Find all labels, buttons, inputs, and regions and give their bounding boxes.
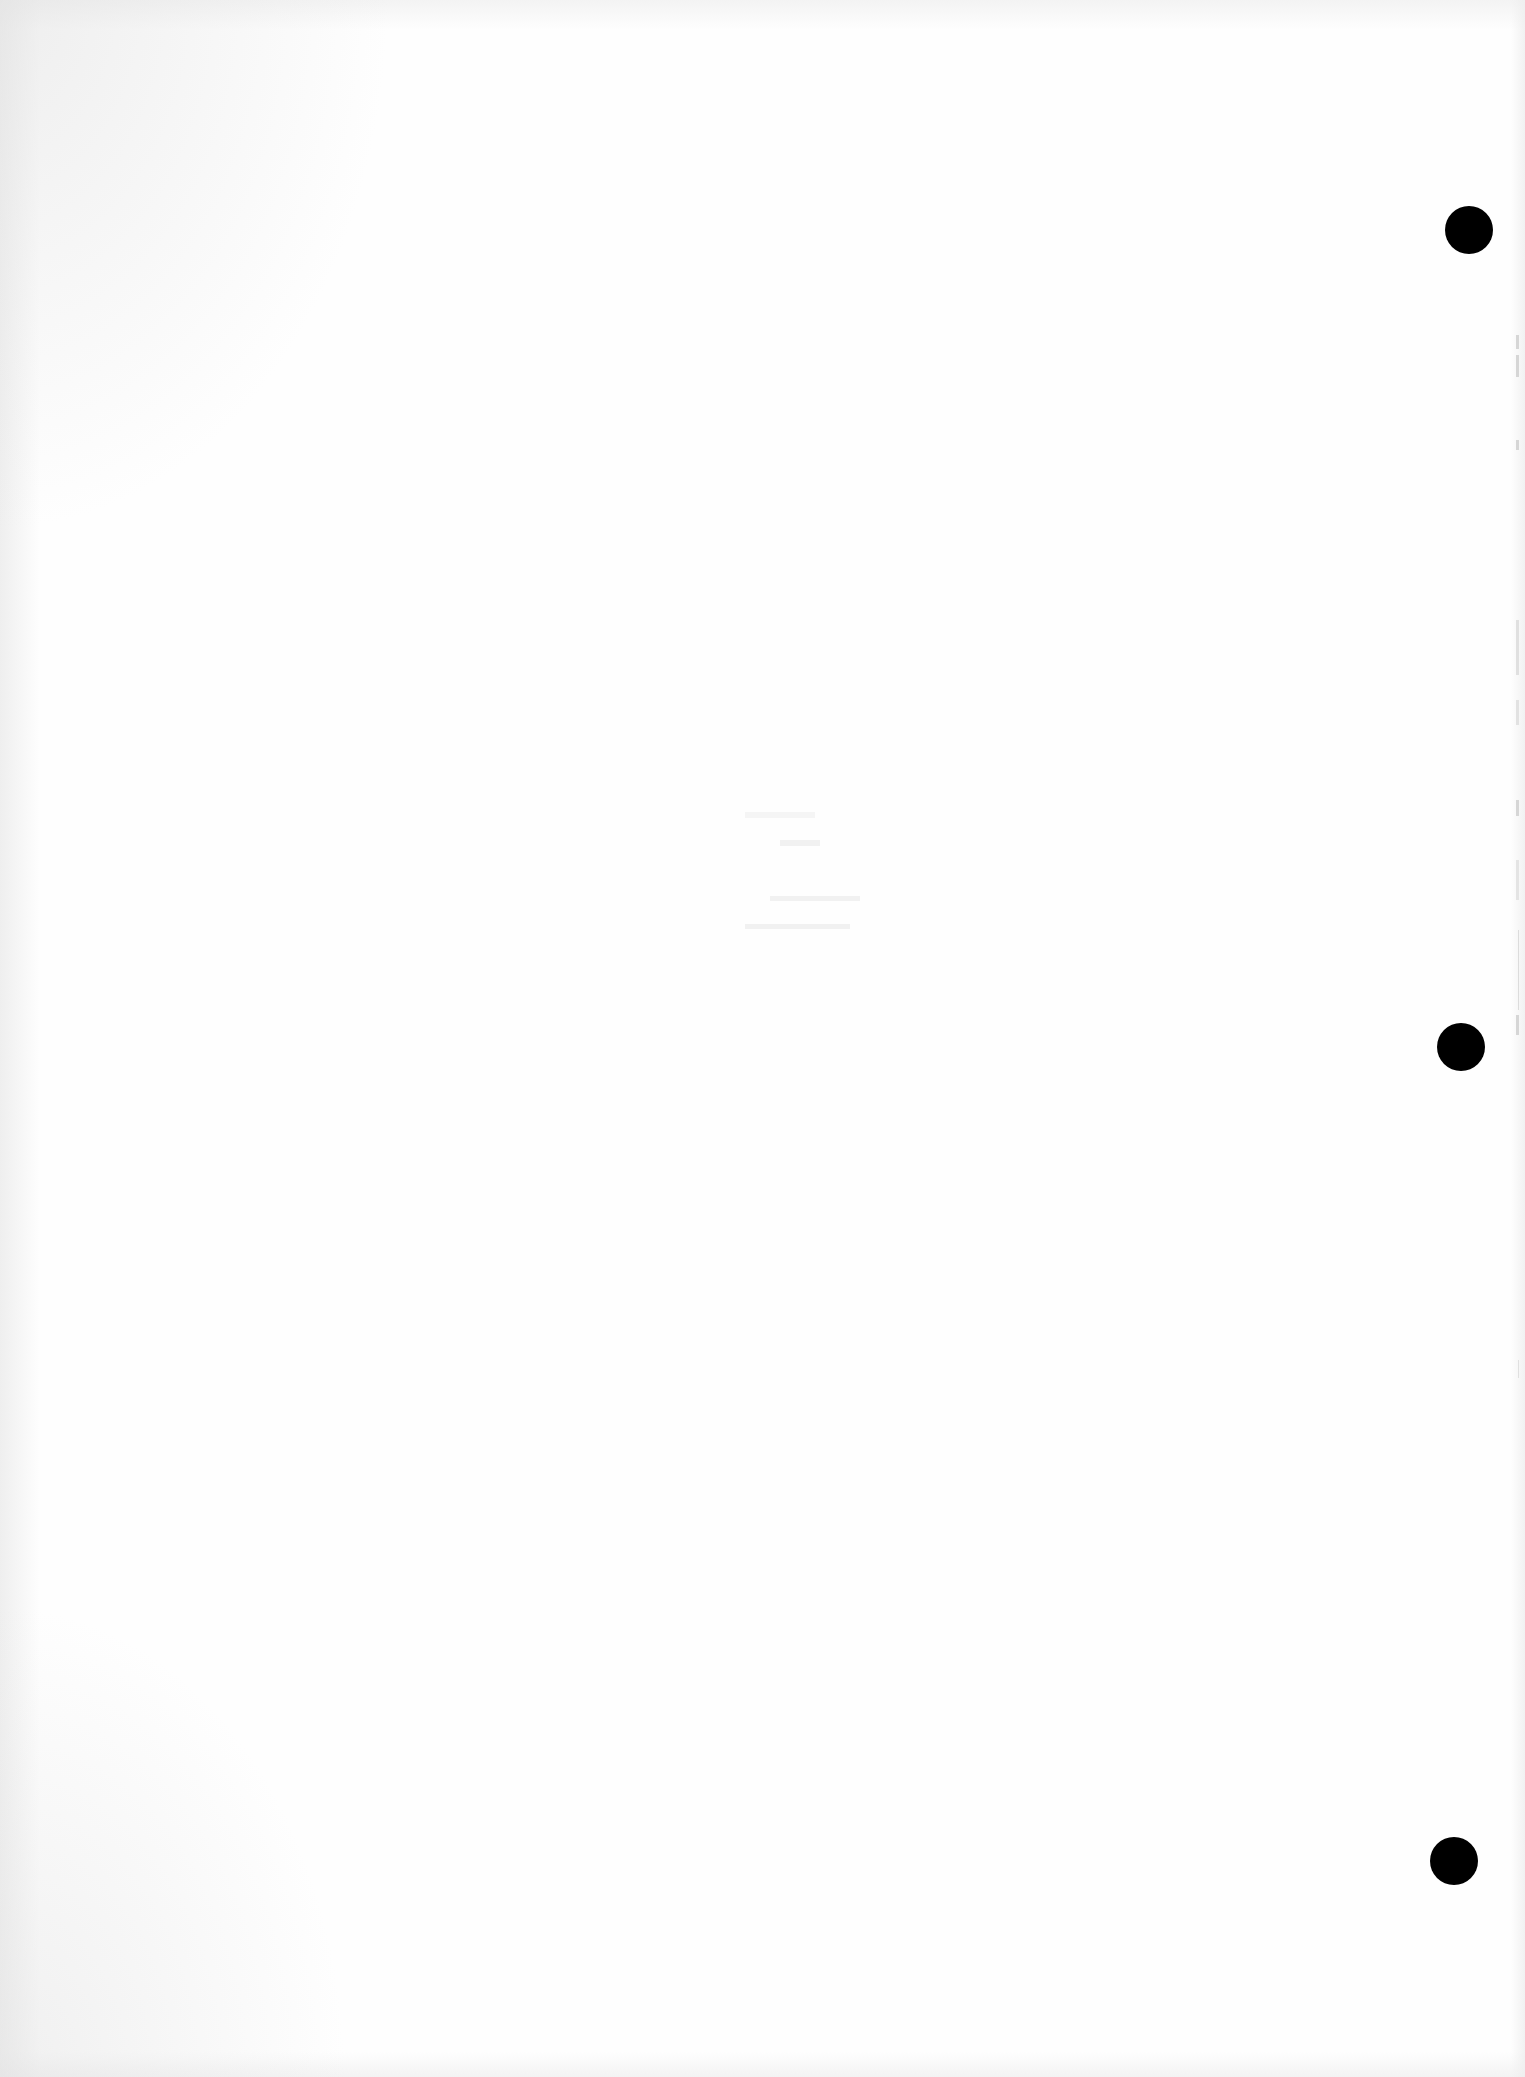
scan-edge-mark [1516,1015,1519,1035]
scan-edge-mark [1516,355,1519,377]
scanned-page [0,0,1525,2077]
scan-edge-mark [1516,335,1519,349]
scan-edge-mark [1516,440,1519,450]
scan-edge-mark [1518,930,1519,1010]
punch-hole-top [1445,206,1493,254]
bleed-through-line-3 [770,896,860,901]
scan-edge-shadow [1511,0,1525,2077]
scan-edge-mark [1516,620,1519,675]
bleed-through-line-2 [780,840,820,846]
punch-hole-middle [1437,1023,1485,1071]
scan-edge-mark [1516,800,1519,816]
scan-edge-mark [1518,1360,1519,1378]
punch-hole-bottom [1430,1837,1478,1885]
bleed-through-line-4 [745,924,850,929]
scan-edge-mark [1516,700,1519,725]
scan-edge-mark [1516,860,1519,900]
bleed-through-line-1 [745,812,815,818]
